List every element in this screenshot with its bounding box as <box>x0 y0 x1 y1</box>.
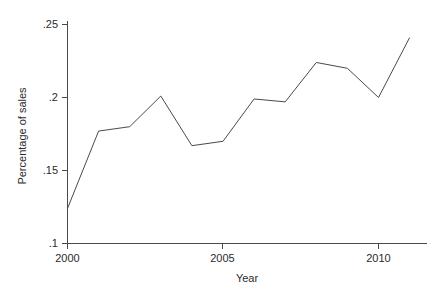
chart-canvas: .25 .2 .15 .1 2000 2005 2010 Year Percen… <box>0 0 435 301</box>
x-tick-label-2: 2010 <box>366 252 390 264</box>
data-series-line <box>68 38 410 209</box>
x-tick-label-0: 2000 <box>55 252 79 264</box>
y-tick-label-3: .1 <box>49 237 58 249</box>
y-axis-title: Percentage of sales <box>16 87 28 185</box>
x-axis-title: Year <box>236 272 259 284</box>
x-tick-label-1: 2005 <box>210 252 234 264</box>
y-tick-marks <box>62 25 68 244</box>
x-tick-marks <box>68 244 379 250</box>
line-chart: .25 .2 .15 .1 2000 2005 2010 Year Percen… <box>0 0 435 301</box>
y-tick-label-0: .25 <box>43 18 58 30</box>
y-tick-label-2: .15 <box>43 164 58 176</box>
y-tick-label-1: .2 <box>49 91 58 103</box>
